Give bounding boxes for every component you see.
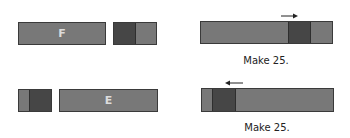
bar-f-label: F [18, 28, 106, 39]
small-box-top [113, 22, 157, 45]
arrow-right-icon [281, 13, 299, 19]
combined-bar-bottom-dark-segment [213, 89, 235, 111]
bar-e-label: E [59, 95, 158, 106]
caption-bottom: Make 25. [227, 123, 307, 133]
combined-bar-top-divider-2 [310, 22, 311, 43]
combined-bar-bottom [201, 88, 334, 112]
arrow-left-icon [225, 80, 244, 86]
small-box-bottom [18, 89, 52, 112]
caption-top: Make 25. [226, 56, 306, 66]
combined-bar-top-dark-segment [289, 22, 310, 43]
small-box-bottom-dark-segment [30, 90, 51, 111]
small-box-top-divider [135, 23, 136, 44]
combined-bar-top [200, 21, 333, 44]
combined-bar-bottom-divider-2 [235, 89, 236, 111]
small-box-top-dark-segment [114, 23, 135, 44]
